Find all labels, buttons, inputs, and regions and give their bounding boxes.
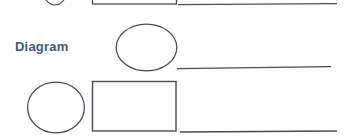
answer-line-bottom — [180, 131, 337, 132]
rectangle-shape-bottom — [93, 82, 177, 132]
circle-shape-top-cropped — [42, 0, 68, 5]
section-label-diagram: Diagram — [15, 39, 68, 55]
circle-shape-bottom — [28, 82, 85, 133]
rectangle-shape-top — [93, 0, 177, 4]
diagram-canvas — [0, 0, 348, 140]
answer-line-top — [178, 4, 337, 5]
circle-shape-middle — [116, 24, 177, 71]
worksheet-page: Diagram — [0, 0, 348, 140]
answer-line-middle — [177, 67, 331, 69]
